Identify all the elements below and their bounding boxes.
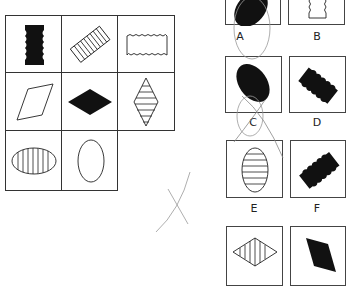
ellipse-striped-icon [6, 131, 63, 192]
parallelogram-black-icon [291, 227, 347, 287]
puzzle-matrix [5, 15, 175, 191]
option-c[interactable] [225, 56, 282, 113]
option-b[interactable] [288, 0, 345, 25]
wavy-rectangle-white-icon [118, 16, 176, 74]
option-e[interactable] [226, 140, 283, 198]
parallelogram-white-icon [6, 73, 63, 132]
option-c-label: C [243, 116, 263, 129]
wavy-rectangle-striped-diagonal-icon [62, 16, 119, 74]
diamond-striped-icon [118, 73, 176, 132]
matrix-cell-r1c0 [5, 72, 62, 131]
ellipse-black-icon [226, 0, 282, 26]
option-b-label: B [307, 30, 327, 43]
option-a[interactable] [225, 0, 281, 25]
matrix-cell-r2c0 [5, 130, 62, 191]
option-g[interactable] [226, 226, 283, 286]
matrix-cell-r1c1 [61, 72, 118, 131]
wavy-rectangle-black-icon [6, 16, 63, 74]
option-h[interactable] [290, 226, 346, 286]
ellipse-white-icon [62, 131, 119, 192]
option-e-label: E [244, 202, 264, 215]
matrix-cell-r1c2 [117, 72, 175, 131]
option-d-label: D [307, 116, 327, 129]
matrix-cell-r0c1 [61, 15, 118, 73]
wavy-rectangle-black-icon [291, 141, 347, 199]
matrix-cell-r0c2 [117, 15, 175, 73]
ellipse-striped-icon [227, 141, 284, 199]
option-f[interactable] [290, 140, 346, 198]
option-d[interactable] [289, 56, 346, 113]
diamond-black-icon [62, 73, 119, 132]
wavy-rectangle-black-icon [290, 57, 347, 114]
matrix-cell-r2c1 [61, 130, 118, 191]
wavy-rectangle-white-icon [289, 0, 346, 26]
option-f-label: F [307, 202, 327, 215]
matrix-cell-r0c0 [5, 15, 62, 73]
diamond-striped-icon [227, 227, 284, 287]
ellipse-black-icon [226, 57, 283, 114]
option-a-label: A [230, 30, 250, 43]
